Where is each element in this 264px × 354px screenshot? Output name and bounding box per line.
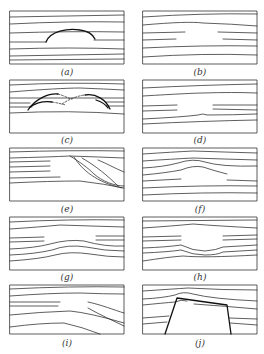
panel-g-drawing — [10, 217, 124, 270]
panel-e-label: (e) — [10, 204, 124, 214]
panel-b — [143, 11, 257, 64]
panel-g-label: (g) — [10, 272, 124, 282]
panel-e — [10, 148, 124, 201]
panel-d-label: (d) — [143, 135, 257, 145]
panel-i-label: (i) — [10, 338, 124, 348]
panel-c-label: (c) — [10, 135, 124, 145]
panel-a — [10, 11, 124, 64]
panel-a-label: (a) — [10, 67, 124, 77]
panel-j-label: (j) — [143, 338, 257, 348]
panel-f-label: (f) — [143, 204, 257, 214]
panel-j — [143, 285, 257, 334]
panel-i-drawing — [10, 285, 124, 334]
panel-a-drawing — [10, 11, 124, 64]
panel-c — [10, 80, 124, 133]
panel-j-drawing — [143, 285, 257, 334]
panel-h — [143, 217, 257, 270]
panel-f — [143, 148, 257, 201]
panel-b-label: (b) — [143, 67, 257, 77]
panel-d — [143, 80, 257, 133]
panel-d-drawing — [143, 80, 257, 133]
panel-h-drawing — [143, 217, 257, 270]
panel-f-drawing — [143, 148, 257, 201]
panel-g — [10, 217, 124, 270]
panel-e-drawing — [10, 148, 124, 201]
panel-b-drawing — [143, 11, 257, 64]
panel-i — [10, 285, 124, 334]
panel-h-label: (h) — [143, 272, 257, 282]
panel-c-drawing — [10, 80, 124, 133]
